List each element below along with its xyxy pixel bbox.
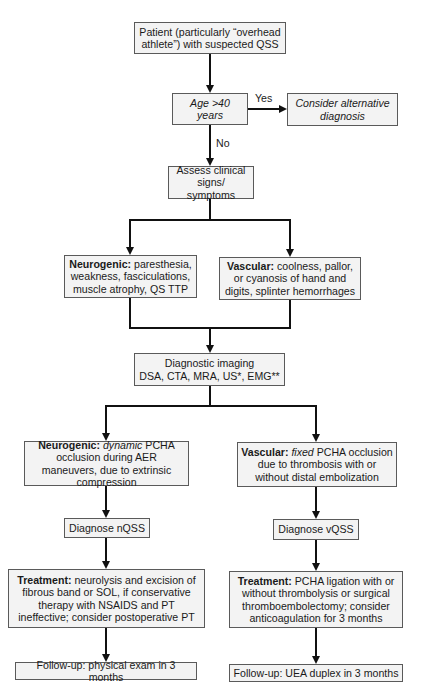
imaging-title: Diagnostic imaging (165, 357, 255, 369)
node-neurogenic-signs-text: Neurogenic: paresthesia, weakness, fasci… (68, 258, 193, 295)
node-followup-neurogenic: Follow-up: physical exam in 3 months (15, 662, 197, 680)
node-alternative-text: Consider alternative diagnosis (291, 97, 394, 121)
split-line-imaging-right (210, 406, 316, 440)
node-assess-text: Assess clinical signs/ symptoms (172, 164, 250, 201)
node-diagnose-vqss: Diagnose vQSS (273, 519, 359, 540)
emph-dynamic: dynamic (100, 439, 142, 451)
node-diagnose-vqss-text: Diagnose vQSS (278, 523, 353, 535)
label-treatment-v: Treatment: (238, 575, 292, 587)
node-patient-text: Patient (particularly “overhead athlete”… (138, 26, 282, 50)
node-diagnose-nqss: Diagnose nQSS (64, 518, 150, 538)
split-line-signs (130, 199, 210, 253)
node-imaging-text: Diagnostic imagingDSA, CTA, MRA, US*, EM… (139, 357, 280, 381)
node-treatment-vascular-text: Treatment: PCHA ligation with or without… (233, 575, 399, 624)
split-line-signs-right (210, 220, 290, 255)
node-vascular-mechanism-text: Vascular: fixed PCHA occlusion due to th… (241, 446, 393, 483)
node-alternative-diagnosis: Consider alternative diagnosis (287, 93, 398, 126)
label-vascular-mech: Vascular: (241, 446, 288, 458)
edge-label-no: No (216, 137, 230, 149)
node-neurogenic-mechanism-text: Neurogenic: dynamic PCHA occlusion durin… (28, 439, 185, 488)
node-age-text: Age >40 years (176, 97, 244, 121)
node-vascular-mechanism: Vascular: fixed PCHA occlusion due to th… (237, 442, 397, 487)
node-followup-vascular: Follow-up: UEA duplex in 3 months (229, 664, 403, 682)
node-followup-v-text: Follow-up: UEA duplex in 3 months (234, 667, 399, 679)
label-vascular: Vascular: (227, 260, 274, 272)
node-treatment-neurogenic-text: Treatment: neurolysis and excision of fi… (12, 574, 201, 623)
label-neurogenic: Neurogenic: (69, 258, 131, 270)
node-vascular-signs: Vascular: coolness, pallor, or cyanosis … (219, 257, 361, 300)
node-diagnostic-imaging: Diagnostic imagingDSA, CTA, MRA, US*, EM… (134, 353, 285, 386)
node-neurogenic-mechanism: Neurogenic: dynamic PCHA occlusion durin… (24, 441, 189, 486)
node-vascular-signs-text: Vascular: coolness, pallor, or cyanosis … (223, 260, 357, 297)
node-treatment-neurogenic: Treatment: neurolysis and excision of fi… (8, 569, 205, 628)
node-patient: Patient (particularly “overhead athlete”… (134, 22, 286, 54)
merge-line-signs-left (130, 298, 290, 328)
split-line-imaging-left (106, 386, 210, 439)
node-treatment-vascular: Treatment: PCHA ligation with or without… (229, 571, 403, 628)
node-assess: Assess clinical signs/ symptoms (168, 166, 254, 199)
node-age-decision: Age >40 years (172, 93, 248, 125)
emph-fixed: fixed (288, 446, 313, 458)
node-followup-n-text: Follow-up: physical exam in 3 months (19, 659, 193, 683)
node-neurogenic-signs: Neurogenic: paresthesia, weakness, fasci… (64, 255, 197, 298)
imaging-modalities: DSA, CTA, MRA, US*, EMG** (139, 370, 280, 382)
node-diagnose-nqss-text: Diagnose nQSS (69, 522, 145, 534)
label-treatment-n: Treatment: (17, 574, 71, 586)
label-neurogenic-mech: Neurogenic: (38, 439, 100, 451)
edge-label-yes: Yes (255, 92, 272, 104)
